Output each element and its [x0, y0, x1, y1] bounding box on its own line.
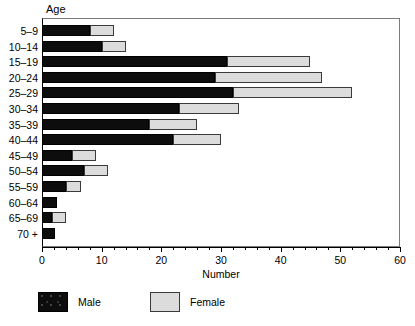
- bar-segment-male: [42, 56, 227, 67]
- age-group-label: 20–24: [0, 71, 38, 85]
- age-group-label: 40–44: [0, 133, 38, 147]
- age-group-label: 30–34: [0, 102, 38, 116]
- bar-rows: 5–910–1415–1920–2425–2930–3435–3940–4445…: [0, 18, 415, 247]
- legend-label-female: Female: [190, 295, 225, 309]
- x-tick-minor: [173, 247, 174, 250]
- bar-row: 15–19: [0, 55, 415, 69]
- bar-row: 65–69: [0, 211, 415, 225]
- bar-segment-male: [42, 181, 66, 192]
- x-tick-minor: [197, 247, 198, 250]
- x-tick-label: 10: [96, 254, 108, 266]
- x-tick-label: 50: [334, 254, 346, 266]
- bar-segment-male: [42, 212, 52, 223]
- age-group-label: 25–29: [0, 86, 38, 100]
- x-tick-minor: [185, 247, 186, 250]
- x-tick-label: 20: [155, 254, 167, 266]
- bar-segment-female: [179, 103, 239, 114]
- bar-segment-female: [149, 119, 197, 130]
- bar-segment-female: [102, 41, 126, 52]
- x-tick-major: [281, 247, 282, 252]
- age-group-label: 55–59: [0, 180, 38, 194]
- x-tick-minor: [245, 247, 246, 250]
- bar-row: 40–44: [0, 133, 415, 147]
- x-tick-minor: [66, 247, 67, 250]
- x-tick-major: [340, 247, 341, 252]
- bar-row: 45–49: [0, 149, 415, 163]
- stacked-bar: [42, 134, 221, 145]
- x-tick-minor: [257, 247, 258, 250]
- x-tick-minor: [293, 247, 294, 250]
- x-tick-major: [161, 247, 162, 252]
- x-tick-minor: [233, 247, 234, 250]
- x-tick-minor: [376, 247, 377, 250]
- x-tick-minor: [316, 247, 317, 250]
- bar-segment-male: [42, 25, 90, 36]
- population-bar-chart: Age 5–910–1415–1920–2425–2930–3435–3940–…: [0, 0, 415, 326]
- x-tick-major: [221, 247, 222, 252]
- bar-row: 70 +: [0, 227, 415, 241]
- stacked-bar: [42, 150, 96, 161]
- x-tick-major: [400, 247, 401, 252]
- stacked-bar: [42, 25, 114, 36]
- bar-segment-male: [42, 197, 57, 208]
- bar-row: 55–59: [0, 180, 415, 194]
- x-tick-label: 40: [275, 254, 287, 266]
- x-tick-minor: [328, 247, 329, 250]
- x-tick-minor: [388, 247, 389, 250]
- bar-row: 10–14: [0, 40, 415, 54]
- stacked-bar: [42, 212, 66, 223]
- bar-segment-female: [66, 181, 81, 192]
- age-group-label: 5–9: [0, 24, 38, 38]
- x-tick-minor: [269, 247, 270, 250]
- stacked-bar: [42, 87, 352, 98]
- x-tick-minor: [114, 247, 115, 250]
- x-tick-minor: [209, 247, 210, 250]
- age-group-label: 15–19: [0, 55, 38, 69]
- x-axis-title: Number: [42, 268, 400, 280]
- bar-segment-male: [42, 41, 102, 52]
- female-swatch-icon: [150, 292, 180, 312]
- bar-segment-female: [215, 72, 322, 83]
- age-group-label: 65–69: [0, 211, 38, 225]
- bar-segment-male: [42, 103, 179, 114]
- x-tick-label: 60: [394, 254, 406, 266]
- stacked-bar: [42, 181, 81, 192]
- bar-row: 30–34: [0, 102, 415, 116]
- stacked-bar: [42, 41, 126, 52]
- bar-row: 20–24: [0, 71, 415, 85]
- age-group-label: 10–14: [0, 40, 38, 54]
- bar-row: 5–9: [0, 24, 415, 38]
- bar-segment-female: [84, 165, 108, 176]
- bar-segment-female: [52, 212, 66, 223]
- y-axis-title: Age: [46, 3, 66, 15]
- bar-segment-male: [42, 228, 55, 239]
- x-tick-major: [102, 247, 103, 252]
- x-tick-label: 0: [39, 254, 45, 266]
- stacked-bar: [42, 228, 55, 239]
- stacked-bar: [42, 165, 108, 176]
- age-group-label: 50–54: [0, 164, 38, 178]
- stacked-bar: [42, 119, 197, 130]
- chart-legend: Male Female: [0, 292, 415, 318]
- bar-row: 50–54: [0, 164, 415, 178]
- male-swatch-icon: [38, 292, 68, 312]
- x-tick-minor: [364, 247, 365, 250]
- bar-row: 25–29: [0, 86, 415, 100]
- stacked-bar: [42, 103, 239, 114]
- x-tick-minor: [78, 247, 79, 250]
- age-group-label: 70 +: [0, 227, 38, 241]
- bar-segment-female: [72, 150, 96, 161]
- x-tick-minor: [305, 247, 306, 250]
- bar-row: 35–39: [0, 118, 415, 132]
- stacked-bar: [42, 197, 57, 208]
- x-tick-minor: [149, 247, 150, 250]
- age-group-label: 45–49: [0, 149, 38, 163]
- bar-segment-male: [42, 87, 233, 98]
- x-tick-minor: [126, 247, 127, 250]
- x-tick-minor: [90, 247, 91, 250]
- stacked-bar: [42, 56, 311, 67]
- bar-segment-male: [42, 134, 173, 145]
- bar-segment-female: [233, 87, 352, 98]
- x-tick-minor: [352, 247, 353, 250]
- bar-row: 60–64: [0, 196, 415, 210]
